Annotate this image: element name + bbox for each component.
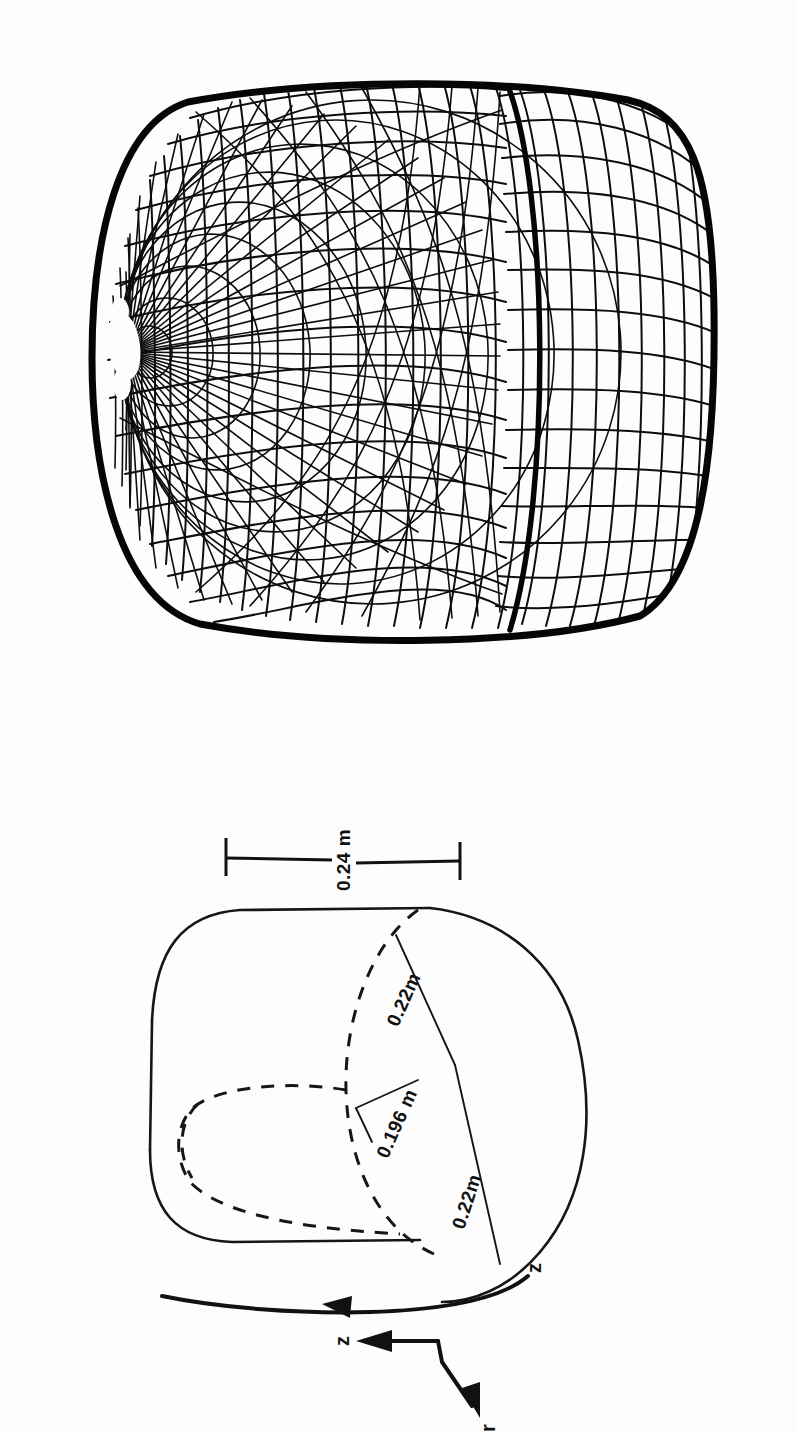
- schematic-panel: 0.24 m: [0, 790, 796, 1435]
- r-axis-arrowhead: [462, 1382, 480, 1418]
- mesh-panel: [0, 40, 796, 740]
- rotation-arrowhead: [322, 1296, 352, 1318]
- upper-radius-label: 0.22m: [383, 969, 425, 1029]
- overall-length-label: 0.24 m: [333, 829, 354, 891]
- overall-length-dimension: 0.24 m: [226, 829, 460, 891]
- lower-radius-label: 0.22m: [448, 1171, 485, 1231]
- upper-radius-leader: 0.22m: [383, 935, 455, 1065]
- body-outline-solid: [150, 908, 586, 1302]
- mesh-svg: [0, 40, 796, 740]
- z-axis-label: z: [331, 1336, 353, 1346]
- lower-radius-leader: 0.22m: [448, 1065, 500, 1264]
- figure-root: 0.24 m: [0, 0, 796, 1435]
- mesh-wireframe: [106, 83, 730, 628]
- z-axis-arrowhead: [356, 1330, 392, 1352]
- mesh-right-cap-hoops: [520, 90, 724, 626]
- coordinate-axes: z r: [331, 1330, 499, 1432]
- rotation-arrow-label: z: [523, 1263, 545, 1273]
- rotation-arrow: z: [162, 1263, 545, 1318]
- r-axis-label: r: [477, 1424, 499, 1432]
- schematic-svg: 0.24 m: [0, 790, 796, 1435]
- body-radius-leader: 0.196 m: [356, 1080, 421, 1161]
- body-outline-hidden: [179, 910, 434, 1254]
